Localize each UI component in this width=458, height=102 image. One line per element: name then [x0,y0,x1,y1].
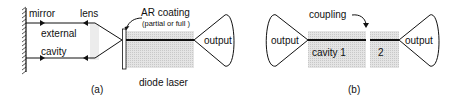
cavity-label: cavity [41,47,67,57]
ar-coating-pointer-icon [127,18,142,27]
ar-coating-note: (partial or full ) [142,20,190,28]
caption-a: (a) [91,85,103,95]
mirror-icon [22,7,26,74]
output-left-label: output [271,36,299,46]
diode-laser-label: diode laser [139,78,188,88]
ar-coating-plate [123,29,127,69]
coupling-arrow-icon [352,15,366,24]
ar-coating-label: AR coating [141,8,190,18]
lens-icon [90,24,99,60]
coupling-arrowhead-icon [363,23,369,28]
diagram-graphics [0,0,458,102]
output-label: output [204,36,232,46]
external-label: external [41,29,77,39]
cavity-1-label: cavity 1 [312,48,346,58]
output-right-label: output [405,36,433,46]
diode-laser-body [126,31,194,68]
lens-label: lens [80,9,98,19]
mirror-label: mirror [29,9,55,19]
coupling-label: coupling [309,10,346,20]
cavity-2-body [370,31,399,68]
figure: mirror lens external cavity AR coating (… [0,0,458,102]
cavity-2-label: 2 [378,48,384,58]
caption-b: (b) [348,85,360,95]
